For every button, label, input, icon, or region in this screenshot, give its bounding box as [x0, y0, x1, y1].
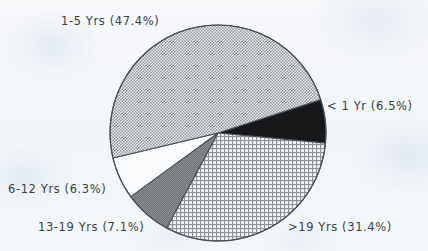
pie-slices: [110, 25, 326, 241]
slice-label-greater-than-19-yrs: >19 Yrs (31.4%): [288, 222, 392, 234]
slice-label-13-19-yrs: 13-19 Yrs (7.1%): [38, 222, 144, 234]
slice-label-6-12-yrs: 6-12 Yrs (6.3%): [8, 184, 106, 196]
slice-label-less-than-1-yr: < 1 Yr (6.5%): [327, 101, 413, 113]
pie-chart-graphic: [0, 0, 428, 251]
pie-chart-page: 1-5 Yrs (47.4%) < 1 Yr (6.5%) >19 Yrs (3…: [0, 0, 428, 251]
slice-label-1-5-yrs: 1-5 Yrs (47.4%): [61, 16, 159, 28]
